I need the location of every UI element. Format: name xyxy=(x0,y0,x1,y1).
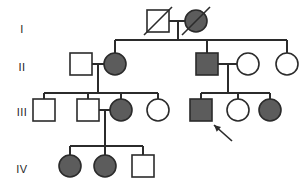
individual-ii-4[interactable] xyxy=(237,53,259,75)
affected-male-square[interactable] xyxy=(190,99,212,121)
unaffected-male-square[interactable] xyxy=(77,99,99,121)
affected-female-circle[interactable] xyxy=(94,155,116,177)
proband-arrow-icon xyxy=(214,125,232,141)
individual-iv-1[interactable] xyxy=(59,155,81,177)
unaffected-female-circle[interactable] xyxy=(237,53,259,75)
proband-arrow-layer xyxy=(214,125,232,141)
individual-symbols-layer xyxy=(33,7,298,177)
unaffected-male-square[interactable] xyxy=(132,155,154,177)
individual-iii-6[interactable] xyxy=(227,99,249,121)
unaffected-female-circle[interactable] xyxy=(276,53,298,75)
individual-i-1[interactable] xyxy=(144,7,172,35)
affected-female-circle[interactable] xyxy=(59,155,81,177)
unaffected-male-square[interactable] xyxy=(33,99,55,121)
individual-iii-4[interactable] xyxy=(147,99,169,121)
generation-label-i: I xyxy=(20,23,24,35)
individual-iii-5[interactable] xyxy=(190,99,212,121)
unaffected-female-circle[interactable] xyxy=(227,99,249,121)
unaffected-male-square[interactable] xyxy=(70,53,92,75)
individual-iii-7[interactable] xyxy=(259,99,281,121)
individual-iv-2[interactable] xyxy=(94,155,116,177)
unaffected-female-circle[interactable] xyxy=(147,99,169,121)
individual-iii-2[interactable] xyxy=(77,99,99,121)
generation-label-ii: II xyxy=(18,61,25,73)
generation-labels-layer: IIIIIIIV xyxy=(16,23,28,175)
pedigree-canvas: IIIIIIIV xyxy=(0,0,306,187)
pedigree-chart: IIIIIIIV xyxy=(0,0,306,187)
individual-ii-5[interactable] xyxy=(276,53,298,75)
affected-male-square[interactable] xyxy=(196,53,218,75)
generation-label-iii: III xyxy=(17,106,28,118)
connection-lines-layer xyxy=(44,21,287,155)
affected-female-circle[interactable] xyxy=(110,99,132,121)
individual-ii-2[interactable] xyxy=(104,53,126,75)
affected-female-circle[interactable] xyxy=(259,99,281,121)
individual-iii-1[interactable] xyxy=(33,99,55,121)
individual-ii-1[interactable] xyxy=(70,53,92,75)
individual-i-2[interactable] xyxy=(182,7,210,35)
affected-female-circle[interactable] xyxy=(104,53,126,75)
individual-iv-3[interactable] xyxy=(132,155,154,177)
individual-ii-3[interactable] xyxy=(196,53,218,75)
individual-iii-3[interactable] xyxy=(110,99,132,121)
generation-label-iv: IV xyxy=(16,163,28,175)
